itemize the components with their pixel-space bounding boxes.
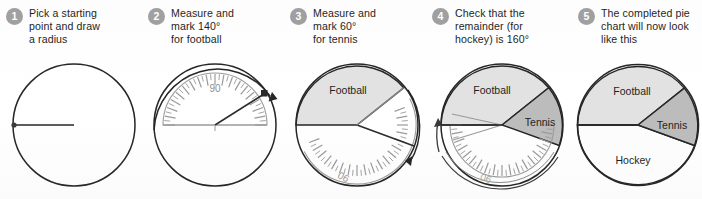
- sector-label-hockey: Hockey: [615, 154, 651, 166]
- step-1-instruction: Pick a starting point and draw a radius: [29, 7, 100, 47]
- sector-label-football: Football: [473, 84, 510, 96]
- step-1-header: 1 Pick a starting point and draw a radiu…: [6, 7, 144, 47]
- mark-point-140: [261, 90, 268, 97]
- step-panel-3: 3 Measure and mark 60° for tennis 90 Foo…: [288, 0, 430, 199]
- step-panel-5: 5 The completed pie chart will now look …: [576, 0, 702, 199]
- protractor-90-label: 90: [209, 83, 221, 94]
- marked-radius-60: [357, 125, 414, 146]
- protractor-90-label: 90: [478, 171, 493, 185]
- step-2-instruction: Measure and mark 140° for football: [171, 7, 234, 47]
- step-number-badge-5: 5: [578, 8, 595, 25]
- sweep-arc-outer: [437, 122, 439, 152]
- step-number-badge-3: 3: [290, 8, 307, 25]
- step-panel-2: 2 Measure and mark 140° for football: [146, 0, 288, 199]
- step-3-instruction: Measure and mark 60° for tennis: [313, 7, 376, 47]
- start-point-marker: [11, 122, 16, 127]
- step-5-instruction: The completed pie chart will now look li…: [601, 7, 690, 47]
- figure-check-remainder-160: 90 Football Tennis: [434, 52, 576, 199]
- sector-label-football: Football: [329, 84, 366, 96]
- step-number-badge-1: 1: [6, 8, 23, 25]
- figure-measure-60-tennis: 90 Football: [290, 52, 432, 199]
- step-number-badge-2: 2: [148, 8, 165, 25]
- sector-label-football: Football: [613, 85, 650, 97]
- step-number-badge-4: 4: [432, 8, 449, 25]
- step-2-header: 2 Measure and mark 140° for football: [148, 7, 288, 47]
- step-3-header: 3 Measure and mark 60° for tennis: [290, 7, 430, 47]
- figure-protractor-measure-140: 90: [148, 52, 290, 199]
- step-panel-4: 4 Check that the remainder (for hockey) …: [430, 0, 576, 199]
- step-4-instruction: Check that the remainder (for hockey) is…: [455, 7, 529, 47]
- sector-label-tennis: Tennis: [525, 116, 555, 128]
- step-5-header: 5 The completed pie chart will now look …: [578, 7, 702, 47]
- sector-label-tennis: Tennis: [657, 119, 687, 131]
- figure-completed-pie-chart: Football Tennis Hockey: [576, 52, 702, 199]
- step-panel-1: 1 Pick a starting point and draw a radiu…: [2, 0, 144, 199]
- figure-circle-with-radius: [4, 52, 144, 199]
- step-4-header: 4 Check that the remainder (for hockey) …: [432, 7, 576, 47]
